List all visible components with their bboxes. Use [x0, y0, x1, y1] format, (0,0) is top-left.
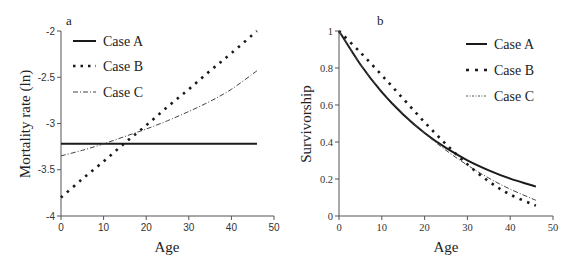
y-tick-label: -2 — [46, 26, 55, 37]
legend-label-case-c: Case C — [103, 85, 143, 100]
panel-a-label: a — [66, 13, 72, 28]
y-tick-label: 1 — [328, 26, 333, 37]
y-tick-label: 0.4 — [320, 137, 334, 148]
plot-lines — [339, 31, 536, 206]
x-tick-label: 30 — [462, 222, 473, 233]
y-axis-title: Mortality rate (ln) — [17, 70, 34, 178]
x-axis-title: Age — [155, 239, 180, 255]
series-line-case-b — [61, 31, 257, 198]
legend-label-case-c: Case C — [494, 89, 534, 104]
y-axis-title: Survivorship — [298, 85, 314, 163]
x-tick-label: 50 — [268, 222, 280, 233]
y-tick-label: -4 — [46, 211, 55, 222]
x-ticks: 01020304050 — [336, 216, 558, 233]
x-tick-label: 40 — [226, 222, 238, 233]
y-ticks: -2-2.5-3-3.5-4 — [38, 26, 61, 222]
x-tick-label: 30 — [183, 222, 195, 233]
x-tick-label: 0 — [58, 222, 64, 233]
legend-label-case-b: Case B — [494, 63, 534, 78]
y-tick-label: 0.2 — [320, 174, 333, 185]
legend-label-case-b: Case B — [103, 59, 143, 74]
y-tick-label: -3.5 — [38, 164, 56, 175]
x-tick-label: 50 — [548, 222, 559, 233]
y-tick-label: 0.8 — [320, 63, 333, 74]
x-tick-label: 0 — [336, 222, 341, 233]
panel-b-label: b — [377, 13, 384, 28]
figure: a -2-2.5-3-3.5-4 01020304050 Age Mortali… — [0, 0, 579, 267]
x-tick-label: 20 — [141, 222, 153, 233]
x-tick-label: 20 — [419, 222, 430, 233]
y-tick-label: 0 — [328, 211, 333, 222]
legend: Case A Case B Case C — [73, 34, 144, 100]
panel-a-mortality-chart: a -2-2.5-3-3.5-4 01020304050 Age Mortali… — [17, 13, 280, 255]
legend-label-case-a: Case A — [494, 37, 535, 52]
legend-label-case-a: Case A — [103, 34, 144, 49]
plot-lines — [61, 31, 257, 198]
y-ticks: 10.80.60.40.20 — [320, 26, 339, 222]
x-axis-title: Age — [434, 239, 459, 255]
series-line-case-c — [339, 31, 536, 200]
y-tick-label: 0.6 — [320, 100, 333, 111]
x-tick-label: 10 — [98, 222, 110, 233]
legend: Case A Case B Case C — [466, 37, 535, 104]
panel-b-survivorship-chart: b 10.80.60.40.20 01020304050 Age Survivo… — [298, 13, 558, 255]
y-tick-label: -2.5 — [38, 72, 56, 83]
series-line-case-a — [339, 31, 536, 187]
series-line-case-b — [339, 31, 536, 206]
x-tick-label: 40 — [505, 222, 516, 233]
y-tick-label: -3 — [46, 118, 55, 129]
x-ticks: 01020304050 — [58, 216, 280, 233]
x-tick-label: 10 — [377, 222, 388, 233]
